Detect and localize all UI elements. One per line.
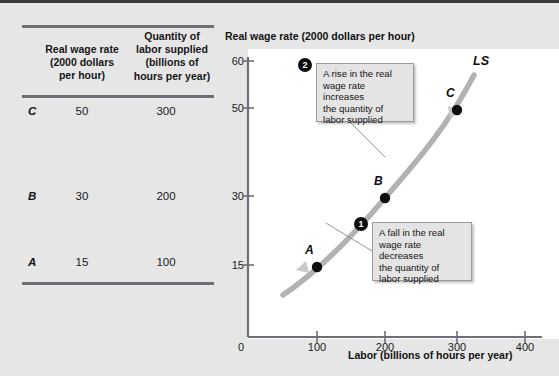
table-header-quantity-line3: (billions of [130, 56, 214, 69]
annotation-1-line3: the quantity of [379, 262, 466, 274]
table-cell-wage-a: 15 [52, 256, 112, 268]
table-cell-quantity-a: 100 [128, 256, 204, 268]
labor-supply-chart: Real wage rate (2000 dollars per hour) L… [222, 27, 552, 367]
annotation-2-line1: A rise in the real [323, 68, 408, 80]
annotation-1-line1: A fall in the real [379, 227, 466, 239]
annotation-callout-2: A rise in the real wage rate increases t… [316, 63, 414, 122]
annotation-2-line2: wage rate increases [323, 80, 408, 103]
arrow-down-marker [296, 261, 309, 273]
annotation-1-line2: wage rate decreases [379, 239, 466, 262]
data-point-c[interactable] [452, 105, 462, 115]
annotation-2-line4: labor supplied [323, 114, 408, 126]
table-header-wage: Real wage rate (2000 dollars per hour) [36, 43, 128, 83]
table-header-quantity-line1: Quantity of [130, 30, 214, 43]
data-point-b[interactable] [380, 193, 390, 203]
table-header-wage-line3: per hour) [36, 69, 128, 82]
table-row-label-a: A [28, 256, 36, 268]
callout-2-leader-line [350, 122, 385, 157]
data-point-label-c: C [446, 86, 455, 100]
table-header-quantity: Quantity of labor supplied (billions of … [130, 30, 214, 83]
table-rule-top [22, 25, 214, 28]
table-rule-middle [22, 95, 214, 98]
table-rule-bottom [22, 282, 214, 285]
annotation-badge-1: 1 [354, 217, 368, 231]
annotation-1-line4: labor supplied [379, 273, 466, 285]
table-row-label-b: B [28, 190, 36, 202]
table-header-quantity-line4: hours per year) [130, 70, 214, 83]
table-cell-quantity-b: 200 [128, 190, 204, 202]
table-cell-wage-c: 50 [52, 105, 112, 117]
data-point-label-b: B [374, 174, 383, 188]
table-row-label-c: C [28, 105, 36, 117]
supply-curve-label-ls: LS [473, 54, 489, 68]
data-point-a[interactable] [312, 262, 322, 272]
table-header-wage-line2: (2000 dollars [36, 56, 128, 69]
supply-schedule-table: Real wage rate (2000 dollars per hour) Q… [22, 25, 214, 285]
annotation-badge-2: 2 [298, 58, 312, 72]
data-point-label-a: A [305, 243, 314, 257]
table-header-wage-line1: Real wage rate [36, 43, 128, 56]
table-header-quantity-line2: labor supplied [130, 43, 214, 56]
table-cell-wage-b: 30 [52, 190, 112, 202]
table-cell-quantity-c: 300 [128, 105, 204, 117]
annotation-2-line3: the quantity of [323, 103, 408, 115]
annotation-callout-1: A fall in the real wage rate decreases t… [372, 222, 472, 281]
figure-panel: Real wage rate (2000 dollars per hour) Q… [0, 0, 559, 376]
